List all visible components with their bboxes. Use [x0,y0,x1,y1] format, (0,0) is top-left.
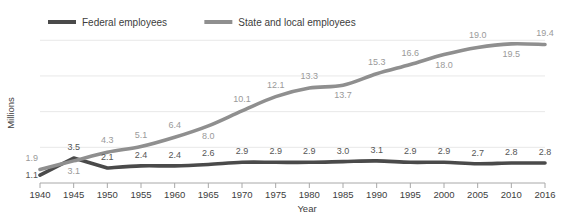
x-tick-label: 2000 [433,189,454,200]
x-tick-label: 1945 [63,189,84,200]
x-tick-label: 1940 [29,189,50,200]
y-axis-title: Millions [5,97,16,129]
x-tick-label: 1980 [299,189,320,200]
data-label-state-local: 15.3 [368,57,386,67]
data-label-federal: 3.0 [337,146,350,156]
data-label-state-local: 16.6 [402,48,420,58]
data-label-federal: 2.9 [303,146,316,156]
data-label-federal: 2.7 [471,148,484,158]
x-tick-label: 1950 [97,189,118,200]
x-tick-label: 2016 [534,189,555,200]
data-label-federal: 2.4 [135,150,148,160]
data-label-state-local: 5.1 [135,130,148,140]
x-tick-label: 1995 [400,189,421,200]
data-label-federal: 1.1 [25,170,38,180]
data-label-state-local: 10.1 [233,94,251,104]
data-label-state-local: 19.0 [469,30,487,40]
data-label-state-local: 12.1 [267,80,285,90]
data-label-state-local: 1.9 [25,153,38,163]
data-label-state-local: 19.5 [503,49,521,59]
x-tick-label: 2010 [501,189,522,200]
chart-canvas: Federal employeesState and local employe… [0,0,563,223]
x-axis-title: Year [297,203,316,214]
data-label-state-local: 13.7 [334,90,352,100]
data-label-federal: 2.9 [236,146,249,156]
line-chart: Federal employeesState and local employe… [0,0,563,223]
data-label-federal: 2.1 [101,152,114,162]
legend-label-federal: Federal employees [82,17,167,28]
data-label-state-local: 18.0 [435,60,453,70]
x-tick-label: 1965 [198,189,219,200]
x-tick-label: 1975 [265,189,286,200]
data-label-federal: 2.9 [438,146,451,156]
x-tick-label: 2005 [467,189,488,200]
data-label-federal: 2.8 [505,147,518,157]
data-label-state-local: 6.4 [168,120,181,130]
data-label-federal: 3.1 [370,145,383,155]
data-label-federal: 2.6 [202,148,215,158]
x-tick-label: 1960 [164,189,185,200]
data-label-federal: 2.8 [539,147,552,157]
data-label-state-local: 4.3 [101,135,114,145]
x-tick-label: 1985 [332,189,353,200]
x-tick-label: 1990 [366,189,387,200]
data-label-federal: 3.5 [67,142,80,152]
data-label-federal: 2.9 [404,146,417,156]
data-label-federal: 2.4 [168,150,181,160]
data-label-state-local: 3.1 [67,166,80,176]
x-tick-label: 1955 [130,189,151,200]
data-label-federal: 2.9 [269,146,282,156]
x-tick-label: 1970 [231,189,252,200]
data-label-state-local: 8.0 [202,131,215,141]
data-label-state-local: 13.3 [301,71,319,81]
data-label-state-local: 19.4 [536,28,554,38]
legend-label-state-local: State and local employees [238,17,355,28]
